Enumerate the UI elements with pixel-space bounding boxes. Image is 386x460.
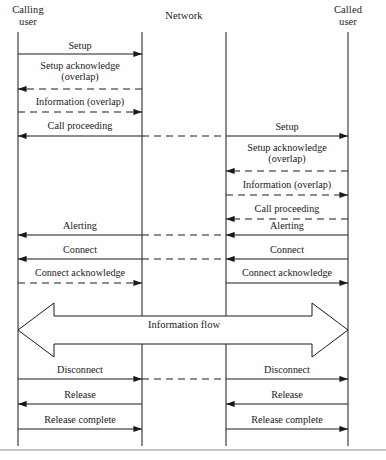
message-label-right-0: Setup (222, 121, 352, 132)
lifelines-group (18, 32, 348, 446)
message-label-left-9: Release complete (15, 414, 145, 425)
message-label-right-5: Connect (222, 244, 352, 255)
sequence-diagram: Calling user Network Called user SetupSe… (0, 0, 386, 460)
information-flow-label: Information flow (104, 319, 264, 331)
message-label-left-8: Release (15, 389, 145, 400)
lifeline-label-called-user: Called user (320, 4, 376, 27)
message-label-left-4: Alerting (15, 220, 145, 231)
message-label-left-3: Call proceeding (15, 120, 145, 131)
message-label-right-8: Release (222, 389, 352, 400)
message-label-right-3: Call proceeding (222, 203, 352, 214)
lifeline-label-calling-user: Calling user (0, 4, 56, 27)
message-label-left-6: Connect acknowledge (15, 267, 145, 278)
message-label-right-7: Disconnect (222, 364, 352, 375)
message-label-left-7: Disconnect (15, 364, 145, 375)
message-label-right-2: Information (overlap) (222, 179, 352, 190)
message-label-left-0: Setup (15, 40, 145, 51)
message-label-right-6: Connect acknowledge (222, 267, 352, 278)
message-label-left-5: Connect (15, 244, 145, 255)
network-label: Network (150, 10, 218, 22)
message-label-right-9: Release complete (222, 414, 352, 425)
message-label-left-2: Information (overlap) (15, 96, 145, 107)
message-label-left-1: Setup acknowledge (overlap) (15, 60, 145, 82)
message-label-right-4: Alerting (222, 220, 352, 231)
message-label-right-1: Setup acknowledge (overlap) (222, 142, 352, 164)
